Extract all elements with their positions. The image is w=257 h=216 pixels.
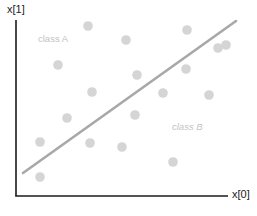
class-b-annotation: class B <box>172 121 203 132</box>
data-point <box>53 60 63 70</box>
x-axis-label: x[0] <box>232 188 250 200</box>
data-point <box>221 40 231 50</box>
data-point <box>83 21 93 31</box>
data-point <box>182 25 192 35</box>
class-a-annotation: class A <box>38 33 68 44</box>
data-point <box>181 64 191 74</box>
data-point <box>121 35 131 45</box>
data-point <box>204 90 214 100</box>
data-point <box>35 137 45 147</box>
axes <box>15 20 228 196</box>
scatter-plot-figure: x[1] x[0] class A class B <box>0 0 257 216</box>
data-point <box>132 70 142 80</box>
data-point <box>85 138 95 148</box>
data-point <box>62 113 72 123</box>
data-point <box>117 142 127 152</box>
data-point <box>130 110 140 120</box>
data-point <box>158 88 168 98</box>
data-point <box>87 87 97 97</box>
data-point <box>35 172 45 182</box>
data-point <box>168 157 178 167</box>
y-axis-label: x[1] <box>7 3 25 15</box>
